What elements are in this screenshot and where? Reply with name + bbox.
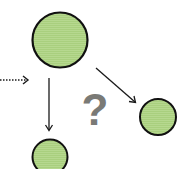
bottom-node [33,140,68,170]
top-to-bottom-arrow [46,78,53,131]
incoming-dotted-arrow [0,76,28,84]
right-node [140,99,176,135]
top-node [33,13,88,68]
question-mark-icon: ? [80,88,110,132]
